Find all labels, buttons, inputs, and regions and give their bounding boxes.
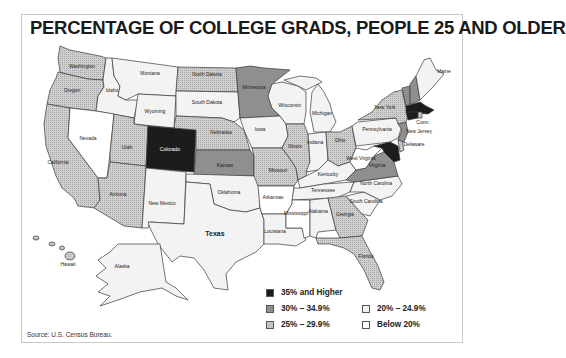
svg-text:Nevada: Nevada [79,135,96,141]
svg-text:Louisiana: Louisiana [264,228,286,234]
svg-text:Ohio: Ohio [335,137,346,143]
svg-text:Nebraska: Nebraska [210,129,232,135]
svg-text:Maine: Maine [437,68,451,74]
svg-text:Virginia: Virginia [369,162,386,168]
legend-item-20-24: 20% – 24.9% [362,304,426,313]
svg-text:West Virginia: West Virginia [346,155,375,161]
state-pennsylvania[interactable] [352,118,402,146]
legend-swatch [266,305,274,313]
svg-text:Tennessee: Tennessee [311,187,335,193]
svg-text:Alabama: Alabama [308,208,328,214]
svg-text:Missouri: Missouri [269,167,288,173]
svg-text:Iowa: Iowa [255,126,266,132]
legend-item-30-34: 30% – 34.9% [266,304,330,313]
legend-swatch [266,289,274,297]
state-hawaii[interactable] [33,236,75,260]
svg-text:Delaware: Delaware [403,141,424,147]
svg-text:Indiana: Indiana [307,139,324,145]
svg-text:Pennsylvania: Pennsylvania [362,126,392,132]
legend-item-35-plus: 35% and Higher [266,288,342,297]
svg-text:New Mexico: New Mexico [148,200,175,206]
svg-text:Wisconsin: Wisconsin [279,102,302,108]
legend-swatch [362,305,370,313]
legend-item-25-29: 25% – 29.9% [266,320,330,329]
svg-text:California: California [47,159,68,165]
svg-text:South Carolina: South Carolina [349,198,382,204]
legend-item-below-20: Below 20% [362,320,420,329]
svg-text:North Dakota: North Dakota [192,71,222,77]
svg-text:Idaho: Idaho [106,87,119,93]
svg-text:New Jersey: New Jersey [406,128,433,134]
svg-text:Hawaii: Hawaii [60,261,75,267]
state-maine[interactable] [416,58,444,100]
legend-swatch [362,321,370,329]
svg-text:Colorado: Colorado [160,146,181,152]
svg-text:Oklahoma: Oklahoma [218,189,241,195]
legend: 35% and Higher 30% – 34.9% 25% – 29.9% 2… [266,288,456,338]
svg-text:Oregon: Oregon [64,87,81,93]
svg-text:Michigan: Michigan [312,110,332,116]
svg-text:Arizona: Arizona [110,191,127,197]
state-new-mexico[interactable] [142,168,186,228]
svg-text:Utah: Utah [122,144,133,150]
svg-text:Wyoming: Wyoming [145,108,166,114]
svg-text:Washington: Washington [69,63,95,69]
svg-text:North Carolina: North Carolina [360,180,392,186]
svg-text:Minnesota: Minnesota [242,84,265,90]
svg-text:Illinois: Illinois [288,143,302,149]
svg-text:Texas: Texas [205,230,224,237]
svg-text:New York: New York [374,104,396,110]
svg-text:Florida: Florida [358,253,374,259]
svg-text:Arkansas: Arkansas [263,194,284,200]
state-montana[interactable] [112,58,178,100]
svg-text:Mississippi: Mississippi [284,210,308,216]
svg-text:Kansas: Kansas [217,162,234,168]
svg-text:Montana: Montana [140,70,160,76]
state-michigan[interactable] [310,84,336,132]
svg-text:Georgia: Georgia [336,211,354,217]
state-florida[interactable] [316,236,384,290]
svg-text:South Dakota: South Dakota [192,99,223,105]
svg-text:Kentucky: Kentucky [318,171,339,177]
state-rhode-island[interactable] [418,112,422,118]
legend-swatch [266,321,274,329]
source-note: Source: U.S. Census Bureau. [27,331,112,338]
svg-text:Conn.: Conn. [416,119,429,125]
svg-text:Alaska: Alaska [114,263,129,269]
